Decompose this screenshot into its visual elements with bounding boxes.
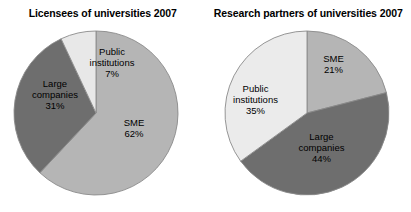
pie-chart-licensees: SME62%Largecompanies31%Publicinstitution… bbox=[0, 0, 206, 212]
chart-panel-research-partners: Research partners of universities 2007 S… bbox=[206, 0, 411, 212]
pie-chart-research-partners: SME21%Largecompanies44%Publicinstitution… bbox=[206, 0, 411, 212]
pie-svg bbox=[0, 0, 206, 212]
chart-panel-licensees: Licensees of universities 2007 SME62%Lar… bbox=[0, 0, 206, 212]
pie-svg bbox=[206, 0, 411, 212]
pie-charts-figure: Licensees of universities 2007 SME62%Lar… bbox=[0, 0, 411, 212]
